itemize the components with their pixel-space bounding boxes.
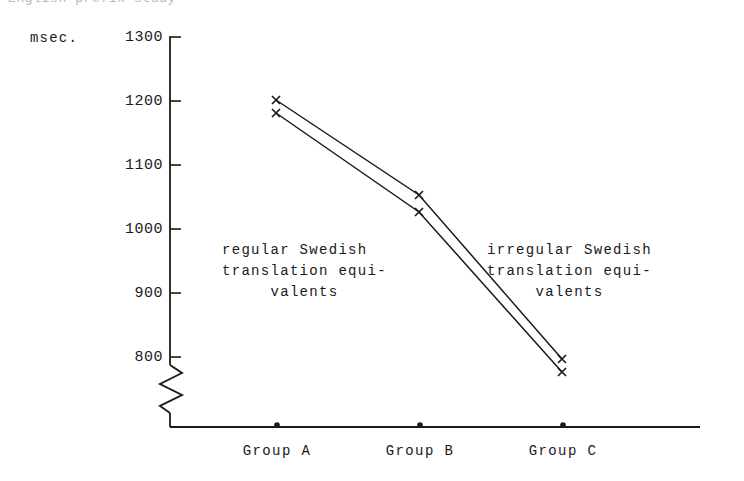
- x-tick-dot-group-b: [417, 422, 423, 428]
- x-tick-label-group-c: Group C: [498, 443, 628, 459]
- annotation-left-line-1: regular Swedish: [222, 240, 387, 261]
- annotation-right-line-2: translation equi-: [487, 261, 652, 282]
- marker-regular-group-c: [558, 355, 566, 363]
- annotation-left-line-3: valents: [222, 282, 387, 303]
- x-axis: [170, 422, 700, 428]
- x-tick-label-group-b: Group B: [355, 443, 485, 459]
- figure-canvas: English prefix study msec. 1300 1200 110…: [0, 0, 744, 481]
- marker-irregular-group-c: [558, 368, 566, 376]
- marker-regular-group-b: [415, 191, 423, 199]
- y-axis-break-zigzag: [160, 365, 182, 427]
- annotation-regular-swedish: regular Swedish translation equi- valent…: [222, 240, 387, 303]
- series-regular-swedish: [272, 96, 566, 363]
- annotation-left-line-2: translation equi-: [222, 261, 387, 282]
- annotation-right-line-1: irregular Swedish: [487, 240, 652, 261]
- x-tick-dot-group-c: [560, 422, 566, 428]
- marker-irregular-group-a: [272, 109, 280, 117]
- marker-regular-group-a: [272, 96, 280, 104]
- x-tick-dot-group-a: [274, 422, 280, 428]
- annotation-irregular-swedish: irregular Swedish translation equi- vale…: [487, 240, 652, 303]
- annotation-right-line-3: valents: [487, 282, 652, 303]
- y-axis: [169, 37, 181, 365]
- marker-irregular-group-b: [415, 208, 423, 216]
- x-tick-label-group-a: Group A: [212, 443, 342, 459]
